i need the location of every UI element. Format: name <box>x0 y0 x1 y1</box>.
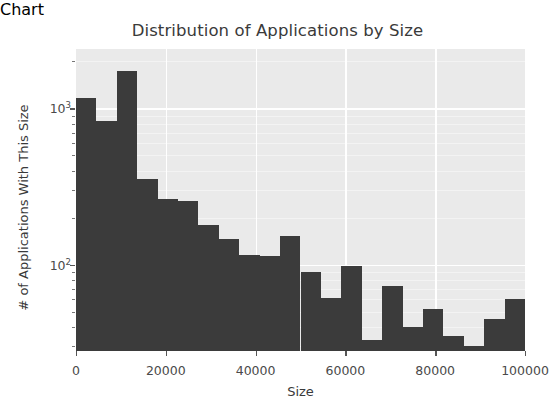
y-axis-tick-mark-minor <box>72 327 75 328</box>
histogram-bar <box>321 298 341 351</box>
histogram-bar <box>301 272 321 351</box>
histogram-bar <box>198 225 218 351</box>
gridline-horizontal-minor <box>76 61 525 62</box>
histogram-bar <box>341 266 361 351</box>
histogram-bar <box>443 336 463 351</box>
y-axis-tick-mark-minor <box>72 124 75 125</box>
y-axis-tick-label: 103 <box>50 100 71 116</box>
x-axis-tick-mark <box>435 351 436 356</box>
histogram-bar <box>484 319 504 351</box>
histogram-bar <box>382 286 402 351</box>
y-axis-tick-mark <box>70 108 75 109</box>
histogram-bar <box>117 71 137 351</box>
histogram-bar <box>280 236 300 351</box>
histogram-bar <box>403 327 423 351</box>
x-axis-tick-label: 40000 <box>236 363 276 378</box>
histogram-bar <box>76 98 96 351</box>
x-axis-tick-mark <box>166 351 167 356</box>
chart-figure: Distribution of Applications by Size # o… <box>0 19 555 400</box>
gridline-horizontal <box>76 108 525 109</box>
gridline-horizontal-minor <box>76 155 525 156</box>
x-axis-tick-mark <box>345 351 346 356</box>
y-axis-tick-mark-minor <box>72 133 75 134</box>
gridline-horizontal-minor <box>76 143 525 144</box>
gridline-horizontal-minor <box>76 171 525 172</box>
histogram-bar <box>96 121 116 351</box>
histogram-bar <box>219 239 239 351</box>
histogram-bar <box>423 309 443 351</box>
y-axis-tick-mark-minor <box>72 272 75 273</box>
y-axis-tick-mark-minor <box>72 171 75 172</box>
x-axis-tick-label: 0 <box>72 363 80 378</box>
y-axis-tick-label: 102 <box>50 257 71 273</box>
gridline-vertical <box>435 49 436 351</box>
y-axis-tick-mark-minor <box>72 61 75 62</box>
plot-area <box>76 49 525 351</box>
x-axis: Size 020000400006000080000100000 <box>0 351 555 400</box>
y-axis-tick-mark-minor <box>72 190 75 191</box>
y-axis-tick-mark <box>70 265 75 266</box>
histogram-bar <box>362 340 382 351</box>
x-axis-tick-label: 60000 <box>326 363 366 378</box>
x-axis-tick-label: 100000 <box>501 363 549 378</box>
histogram-bar <box>505 299 525 351</box>
chart-title: Distribution of Applications by Size <box>0 21 555 40</box>
y-axis-tick-mark-minor <box>72 299 75 300</box>
y-axis-label: # of Applications With This Size <box>16 48 31 368</box>
histogram-bar <box>239 255 259 351</box>
histogram-bar <box>137 179 157 351</box>
gridline-horizontal-minor <box>76 116 525 117</box>
x-axis-label: Size <box>76 384 525 399</box>
y-axis-tick-mark-minor <box>72 289 75 290</box>
x-axis-tick-label: 80000 <box>415 363 455 378</box>
y-axis-tick-mark-minor <box>72 218 75 219</box>
histogram-bar <box>158 199 178 351</box>
histogram-bar <box>178 201 198 351</box>
y-axis-tick-mark-minor <box>72 155 75 156</box>
y-axis-tick-mark-minor <box>72 280 75 281</box>
gridline-horizontal-minor <box>76 124 525 125</box>
y-axis-tick-mark-minor <box>72 143 75 144</box>
x-axis-tick-mark <box>76 351 77 356</box>
x-axis-tick-mark <box>525 351 526 356</box>
histogram-bar <box>260 256 280 351</box>
x-axis-tick-mark <box>256 351 257 356</box>
y-axis-tick-mark-minor <box>72 312 75 313</box>
y-axis-tick-mark-minor <box>72 116 75 117</box>
x-axis-tick-label: 20000 <box>146 363 186 378</box>
gridline-horizontal-minor <box>76 133 525 134</box>
y-axis-tick-mark-minor <box>72 346 75 347</box>
y-axis: # of Applications With This Size 102103 <box>0 19 76 400</box>
